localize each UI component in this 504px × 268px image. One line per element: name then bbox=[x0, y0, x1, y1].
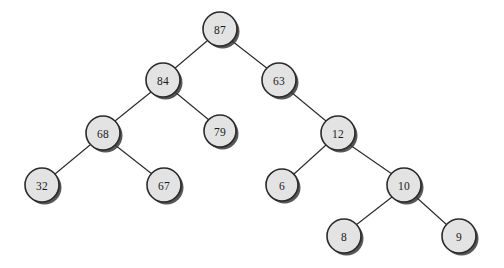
tree-node[interactable]: 10 bbox=[387, 168, 424, 205]
tree-node[interactable]: 9 bbox=[442, 219, 479, 256]
node-label: 67 bbox=[158, 180, 170, 192]
tree-node[interactable]: 6 bbox=[266, 169, 301, 204]
tree-node[interactable]: 8 bbox=[327, 219, 364, 256]
tree-node[interactable]: 79 bbox=[204, 115, 239, 150]
tree-node[interactable]: 63 bbox=[262, 63, 299, 100]
tree-edge bbox=[291, 92, 326, 121]
binary-tree-diagram: 878463687912326761089 bbox=[0, 0, 504, 268]
tree-edge bbox=[55, 145, 90, 174]
tree-node[interactable]: 68 bbox=[86, 116, 123, 153]
node-label: 79 bbox=[214, 126, 226, 138]
node-label: 12 bbox=[332, 128, 344, 140]
tree-edge bbox=[174, 41, 207, 69]
tree-edge bbox=[294, 145, 326, 174]
tree-edge bbox=[356, 197, 392, 225]
tree-edge bbox=[232, 41, 268, 69]
node-label: 63 bbox=[273, 75, 285, 87]
node-label: 8 bbox=[341, 231, 347, 243]
tree-node[interactable]: 12 bbox=[321, 116, 358, 153]
node-label: 9 bbox=[456, 231, 462, 243]
node-label: 68 bbox=[97, 128, 109, 140]
tree-node[interactable]: 67 bbox=[147, 168, 184, 205]
tree-edge bbox=[115, 145, 152, 174]
node-label: 10 bbox=[398, 180, 410, 192]
node-label: 6 bbox=[279, 180, 285, 192]
tree-node[interactable]: 87 bbox=[203, 12, 240, 49]
node-label: 32 bbox=[36, 180, 48, 192]
tree-edge bbox=[350, 145, 392, 174]
tree-node[interactable]: 84 bbox=[146, 63, 183, 100]
node-label: 87 bbox=[214, 24, 226, 36]
tree-edge bbox=[416, 197, 447, 225]
tree-edge bbox=[115, 92, 151, 121]
tree-canvas: 878463687912326761089 bbox=[0, 0, 504, 268]
tree-edge bbox=[175, 92, 209, 120]
node-label: 84 bbox=[157, 75, 169, 87]
tree-nodes: 878463687912326761089 bbox=[25, 12, 479, 256]
